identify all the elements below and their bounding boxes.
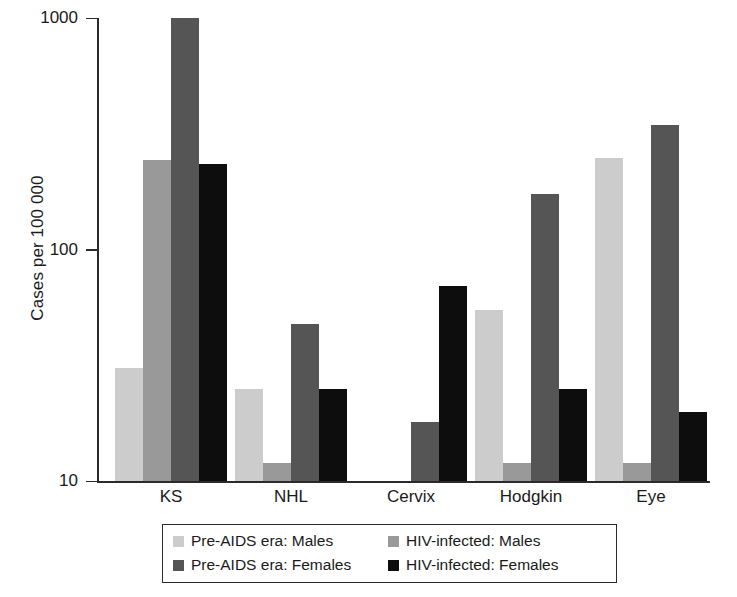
bar-group — [475, 18, 587, 481]
legend-label: HIV-infected: Males — [406, 532, 540, 550]
y-axis-tick-label: 100 — [50, 240, 78, 260]
x-axis-tick-label: Cervix — [341, 487, 481, 507]
bar — [263, 463, 291, 481]
bar — [595, 158, 623, 482]
bar — [235, 389, 263, 481]
bar — [679, 412, 707, 482]
legend-item: Pre-AIDS era: Males — [173, 532, 388, 550]
bar-group — [115, 18, 227, 481]
x-axis-line — [97, 481, 710, 483]
legend-item: Pre-AIDS era: Females — [173, 556, 388, 574]
y-axis-tick-label: 10 — [59, 471, 78, 491]
bar — [475, 310, 503, 481]
bar — [623, 463, 651, 481]
y-axis-tick: 10 — [86, 481, 97, 483]
plot-area: 101001000 KSNHLCervixHodgkinEye — [97, 18, 710, 483]
legend-label: Pre-AIDS era: Males — [191, 532, 333, 550]
bar — [199, 164, 227, 481]
x-axis-tick-label: NHL — [221, 487, 361, 507]
x-axis-tick-label: Hodgkin — [461, 487, 601, 507]
y-axis-tick-label: 1000 — [40, 8, 78, 28]
bar — [319, 389, 347, 481]
y-axis-tick: 100 — [86, 249, 97, 251]
x-axis-tick-label: KS — [101, 487, 241, 507]
bar — [503, 463, 531, 481]
bar — [115, 368, 143, 482]
bar — [411, 422, 439, 481]
bar-group — [355, 18, 467, 481]
y-axis-line — [97, 18, 99, 483]
bar — [291, 324, 319, 482]
legend-swatch — [388, 560, 399, 571]
bar-group — [235, 18, 347, 481]
bar-group — [595, 18, 707, 481]
legend-swatch — [173, 536, 184, 547]
legend-swatch — [388, 536, 399, 547]
chart-legend: Pre-AIDS era: MalesHIV-infected: MalesPr… — [162, 524, 617, 583]
legend-label: Pre-AIDS era: Females — [191, 556, 351, 574]
bar-chart: Cases per 100 000 101001000 KSNHLCervixH… — [0, 0, 737, 597]
legend-swatch — [173, 560, 184, 571]
legend-item: HIV-infected: Males — [388, 532, 606, 550]
x-axis-tick-label: Eye — [581, 487, 721, 507]
legend-item: HIV-infected: Females — [388, 556, 606, 574]
legend-label: HIV-infected: Females — [406, 556, 558, 574]
bar — [651, 125, 679, 481]
bar — [531, 194, 559, 482]
y-axis-title: Cases per 100 000 — [28, 118, 48, 378]
bar — [171, 18, 199, 481]
bar — [143, 160, 171, 482]
y-axis-tick: 1000 — [86, 18, 97, 20]
bar — [439, 286, 467, 482]
bar — [559, 389, 587, 481]
